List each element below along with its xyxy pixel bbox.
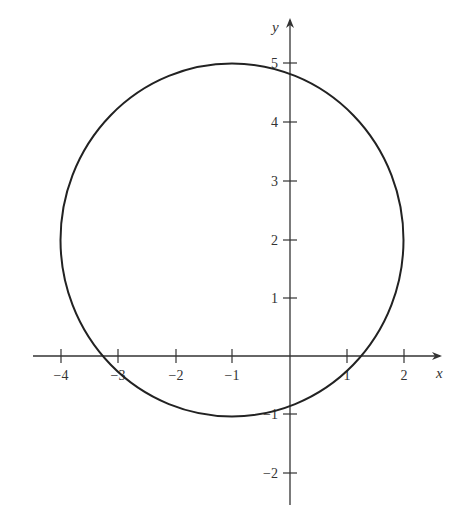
x-tick-label: −2 (169, 368, 184, 383)
y-tick-label: −2 (263, 466, 278, 481)
x-tick-label: −4 (54, 368, 69, 383)
x-tick-label: 2 (401, 368, 408, 383)
y-tick-label: 2 (271, 233, 278, 248)
x-axis-label: x (435, 365, 443, 381)
y-tick-label: 4 (271, 115, 278, 130)
x-tick-label: −1 (225, 368, 240, 383)
y-tick-label: 1 (271, 291, 278, 306)
circle-plot: −4 −3 −2 −1 1 2 5 4 3 2 1 −1 −2 x y (0, 0, 463, 532)
y-axis-label: y (270, 19, 279, 35)
y-tick-label: 3 (271, 174, 278, 189)
circle-curve (61, 64, 404, 417)
y-tick-label: −1 (263, 407, 278, 422)
